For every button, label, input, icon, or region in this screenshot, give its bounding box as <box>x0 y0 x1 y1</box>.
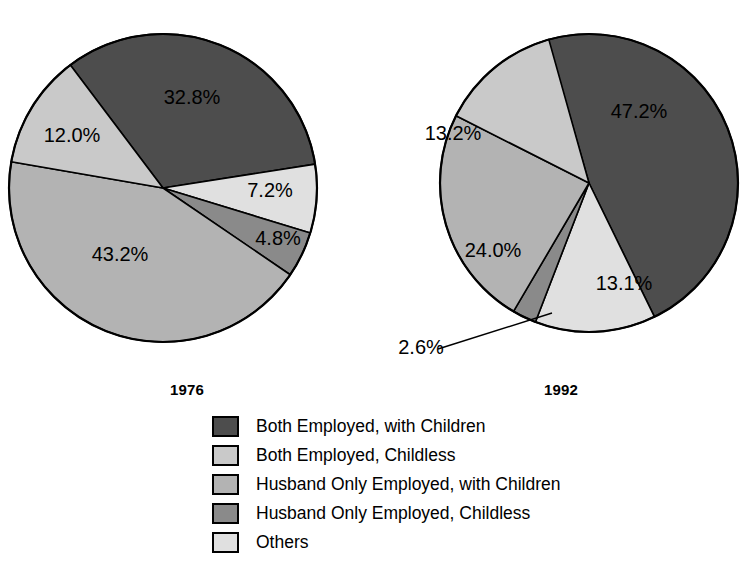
legend-label-2: Husband Only Employed, with Children <box>256 476 560 494</box>
pie-1992-slices <box>440 34 738 332</box>
pie-1992-year-label: 1992 <box>374 381 748 398</box>
pie-1992-callout <box>438 313 552 349</box>
pie-1992-label-0: 47.2% <box>611 100 668 122</box>
pie-1992-label-4: 13.1% <box>596 272 653 294</box>
legend-swatch-icon-0 <box>212 416 239 437</box>
pie-1992-label-2: 24.0% <box>465 239 522 261</box>
legend-swatch-icon-2 <box>212 474 239 495</box>
legend-swatch-icon-3 <box>212 503 239 524</box>
legend-label-0: Both Employed, with Children <box>256 418 486 436</box>
legend-swatch-icon-4 <box>212 532 239 553</box>
pie-1976-label-4: 7.2% <box>247 179 293 201</box>
legend-swatch-icon-1 <box>212 445 239 466</box>
legend: Both Employed, with Children Both Employ… <box>212 412 732 557</box>
legend-item-others[interactable]: Others <box>212 528 732 557</box>
pie-1976-label-0: 32.8% <box>164 86 221 108</box>
legend-label-4: Others <box>256 534 309 552</box>
legend-item-both-employed-with-children[interactable]: Both Employed, with Children <box>212 412 732 441</box>
pie-1976-label-1: 12.0% <box>44 124 101 146</box>
pie-1992-svg: 47.2%13.1%2.6%24.0%13.2% <box>374 0 748 380</box>
legend-label-3: Husband Only Employed, Childless <box>256 505 530 523</box>
legend-item-husband-only-childless[interactable]: Husband Only Employed, Childless <box>212 499 732 528</box>
callout-leader-line <box>438 313 552 349</box>
pie-1976-year-label: 1976 <box>0 381 374 398</box>
legend-item-both-employed-childless[interactable]: Both Employed, Childless <box>212 441 732 470</box>
legend-item-husband-only-with-children[interactable]: Husband Only Employed, with Children <box>212 470 732 499</box>
pie-1976-svg: 32.8%7.2%4.8%43.2%12.0% <box>0 0 374 380</box>
figure-canvas: 32.8%7.2%4.8%43.2%12.0% 1976 47.2%13.1%2… <box>0 0 748 586</box>
pie-1976-label-3: 4.8% <box>255 227 301 249</box>
pie-1992-callout-label-3: 2.6% <box>398 336 444 358</box>
legend-label-1: Both Employed, Childless <box>256 447 455 465</box>
pie-1976-label-2: 43.2% <box>92 243 149 265</box>
pie-1992-label-1: 13.2% <box>425 122 482 144</box>
